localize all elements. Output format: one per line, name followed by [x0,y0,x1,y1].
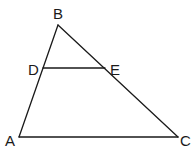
label-e: E [110,61,120,78]
label-d: D [28,61,39,78]
label-b: B [53,5,63,22]
segment-ab [19,25,58,137]
label-a: A [5,132,15,149]
label-c: C [180,132,191,149]
triangle-diagram: A B C D E [0,0,196,156]
segment-bc [58,25,178,137]
